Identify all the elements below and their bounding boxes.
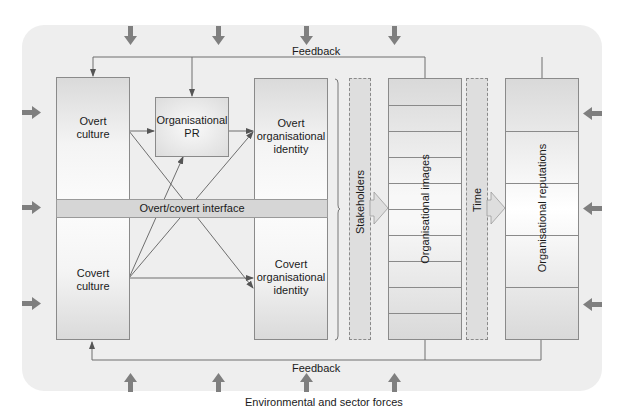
organisational-reputations-label: Organisational reputations xyxy=(536,133,550,283)
organisational-reputations-column: Organisational reputations xyxy=(505,78,579,340)
